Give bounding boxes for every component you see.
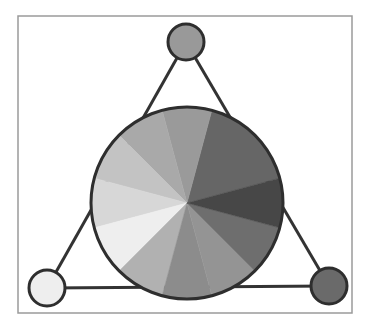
top-node [168,24,204,60]
bottom-left-node [29,270,65,306]
color-wheel-diagram [0,0,371,329]
bottom-right-node [311,268,347,304]
